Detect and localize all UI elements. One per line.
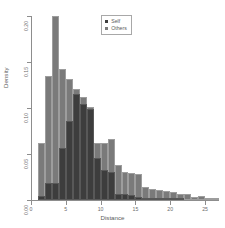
x-tick-label: 5	[59, 206, 73, 212]
histogram-bar	[177, 198, 184, 200]
y-tick-label: 0.20	[23, 16, 29, 36]
x-axis-line	[31, 200, 219, 201]
histogram-bar	[80, 104, 87, 200]
histogram-bar	[45, 183, 52, 200]
histogram-bar	[108, 172, 115, 200]
histogram-bar	[184, 194, 191, 200]
legend-item-label: Others	[111, 25, 127, 32]
legend-item: Others	[105, 25, 127, 32]
x-tick-label: 10	[94, 206, 108, 212]
histogram-bar	[149, 198, 156, 200]
histogram-bar	[212, 198, 219, 200]
histogram-bar	[135, 174, 142, 200]
legend-item: Self	[105, 18, 127, 25]
histogram-figure: 0.000.050.100.150.200510152025 Density D…	[0, 0, 225, 228]
histogram-bar	[156, 198, 163, 200]
histogram-bar	[38, 143, 45, 200]
histogram-bar	[170, 198, 177, 200]
x-axis-title: Distance	[0, 214, 225, 221]
histogram-bar	[73, 94, 80, 200]
y-axis-title: Density	[2, 67, 9, 88]
histogram-bar	[101, 170, 108, 200]
legend: SelfOthers	[101, 15, 132, 35]
y-tick-label: 0.10	[23, 108, 29, 128]
y-tick-label: 0.15	[23, 62, 29, 82]
x-tick-mark	[31, 201, 32, 205]
histogram-bar	[135, 197, 142, 200]
histogram-bar	[163, 198, 170, 200]
histogram-bar	[45, 76, 52, 200]
legend-swatch-icon	[105, 27, 108, 30]
legend-item-label: Self	[111, 18, 120, 25]
histogram-bar	[94, 158, 101, 200]
histogram-bar	[52, 183, 59, 200]
legend-swatch-icon	[105, 20, 108, 23]
histogram-bar	[198, 196, 205, 200]
histogram-bar	[122, 194, 129, 200]
x-tick-label: 20	[163, 206, 177, 212]
x-tick-mark	[135, 201, 136, 205]
histogram-bar	[52, 16, 59, 200]
y-axis-line	[31, 16, 32, 200]
x-tick-mark	[66, 201, 67, 205]
histogram-bar	[115, 194, 122, 200]
x-tick-label: 15	[128, 206, 142, 212]
histogram-bar	[59, 148, 66, 200]
x-tick-mark	[170, 201, 171, 205]
histogram-bar	[128, 195, 135, 200]
histogram-bar	[191, 197, 198, 200]
y-tick-label: 0.05	[23, 154, 29, 174]
x-tick-mark	[101, 201, 102, 205]
histogram-bar	[38, 196, 45, 200]
histogram-bar	[142, 198, 149, 200]
histogram-bar	[66, 121, 73, 200]
histogram-bar	[205, 198, 212, 200]
histogram-bar	[87, 109, 94, 200]
plot-area	[31, 16, 219, 200]
x-tick-label: 0	[24, 206, 38, 212]
x-tick-label: 25	[198, 206, 212, 212]
x-tick-mark	[205, 201, 206, 205]
